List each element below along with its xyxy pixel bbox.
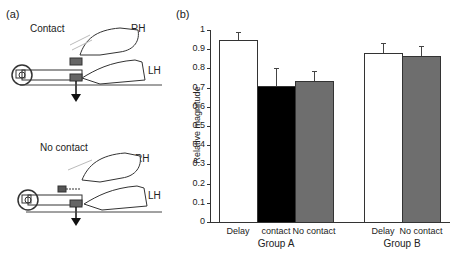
- y-tick: [207, 49, 210, 50]
- bar-group-a-no-contact: [295, 81, 334, 223]
- error-bar: [383, 43, 384, 53]
- y-tick: [207, 126, 210, 127]
- error-bar: [421, 46, 422, 56]
- x-tick-label: No contact: [396, 226, 446, 236]
- y-tick-label: 0.7: [185, 82, 205, 92]
- y-tick-label: 0.9: [185, 43, 205, 53]
- error-bar-cap: [274, 68, 279, 69]
- bar-chart: 00.10.20.30.40.50.60.70.80.91 Delayconta…: [0, 0, 456, 255]
- y-tick: [207, 88, 210, 89]
- error-bar: [276, 68, 277, 85]
- y-tick-label: 0: [185, 216, 205, 226]
- y-tick: [207, 222, 210, 223]
- error-bar-cap: [236, 32, 241, 33]
- y-tick: [207, 68, 210, 69]
- y-tick-label: 0.4: [185, 139, 205, 149]
- bar-group-b-delay: [364, 53, 403, 223]
- error-bar-cap: [381, 43, 386, 44]
- y-tick-label: 0.1: [185, 197, 205, 207]
- bar-group-b-no-contact: [402, 56, 441, 223]
- y-tick-label: 0.8: [185, 62, 205, 72]
- y-tick-label: 1: [185, 24, 205, 34]
- y-tick-label: 0.2: [185, 178, 205, 188]
- y-axis-line: [210, 30, 211, 223]
- bar-group-a-delay: [219, 40, 258, 223]
- y-tick: [207, 203, 210, 204]
- y-tick-label: 0.6: [185, 101, 205, 111]
- x-tick-label: No contact: [289, 226, 339, 236]
- y-tick: [207, 30, 210, 31]
- group-label: Group B: [364, 238, 440, 249]
- y-tick: [207, 184, 210, 185]
- y-tick: [207, 164, 210, 165]
- error-bar-cap: [312, 71, 317, 72]
- bar-group-a-contact: [257, 86, 296, 223]
- group-label: Group A: [219, 238, 333, 249]
- y-tick-label: 0.3: [185, 158, 205, 168]
- y-tick: [207, 107, 210, 108]
- error-bar: [314, 71, 315, 81]
- error-bar-cap: [419, 46, 424, 47]
- y-tick: [207, 145, 210, 146]
- error-bar: [238, 32, 239, 40]
- y-tick-label: 0.5: [185, 120, 205, 130]
